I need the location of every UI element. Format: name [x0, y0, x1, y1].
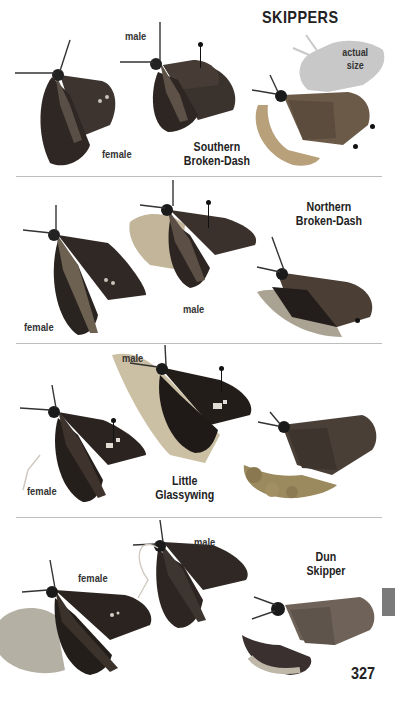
label-male: male [125, 30, 146, 42]
field-guide-page: SKIPPERS actual size female male [0, 0, 395, 715]
section-divider [16, 176, 382, 177]
butterfly-photo-glassywing-perched [242, 410, 382, 505]
label-male: male [122, 352, 143, 364]
label-male: male [183, 303, 204, 315]
species-name-southern-broken-dash: Southern Broken-Dash [184, 140, 250, 168]
butterfly-photo-northern-male [125, 180, 260, 290]
label-male: male [194, 536, 215, 548]
label-female: female [24, 321, 54, 333]
butterfly-photo-southern-perched [248, 70, 378, 170]
section-divider [16, 343, 382, 344]
label-female: female [102, 148, 132, 160]
species-name-little-glassywing: Little Glassywing [155, 474, 214, 502]
chapter-tab-marker [382, 588, 395, 616]
section-divider [16, 517, 382, 518]
species-name-northern-broken-dash: Northern Broken-Dash [296, 200, 362, 228]
actual-size-label: actual size [342, 46, 368, 72]
butterfly-photo-dun-male [128, 520, 253, 632]
label-female: female [78, 572, 108, 584]
page-title: SKIPPERS [262, 8, 338, 28]
butterfly-photo-northern-perched [252, 232, 382, 342]
page-number: 327 [351, 664, 375, 684]
species-name-dun-skipper: Dun Skipper [306, 550, 345, 578]
label-female: female [27, 485, 57, 497]
